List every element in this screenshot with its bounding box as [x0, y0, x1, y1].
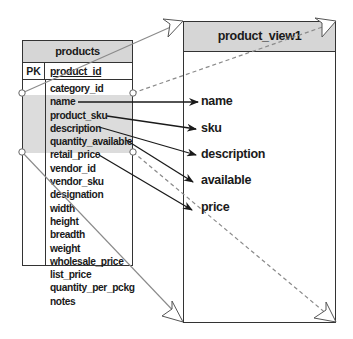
- mapping-available: [126, 140, 193, 182]
- mapping-description: [99, 127, 196, 155]
- selection-boundary-circles: [19, 90, 136, 155]
- view-column-price: price: [201, 200, 229, 214]
- hollow-arrowhead-icon: [314, 18, 336, 322]
- view-column-name: name: [201, 94, 232, 108]
- mapping-connectors: [0, 0, 353, 339]
- mapping-sku: [107, 116, 196, 129]
- view-column-description: description: [201, 147, 265, 161]
- projection-guide-lines: [22, 22, 182, 320]
- dashed-guide-lines: [133, 23, 334, 320]
- field-mapping-arrows: [78, 102, 198, 210]
- view-column-sku: sku: [201, 121, 222, 135]
- mapping-price: [99, 155, 192, 210]
- hollow-arrowhead-icon: [162, 19, 183, 322]
- view-column-available: available: [201, 173, 251, 187]
